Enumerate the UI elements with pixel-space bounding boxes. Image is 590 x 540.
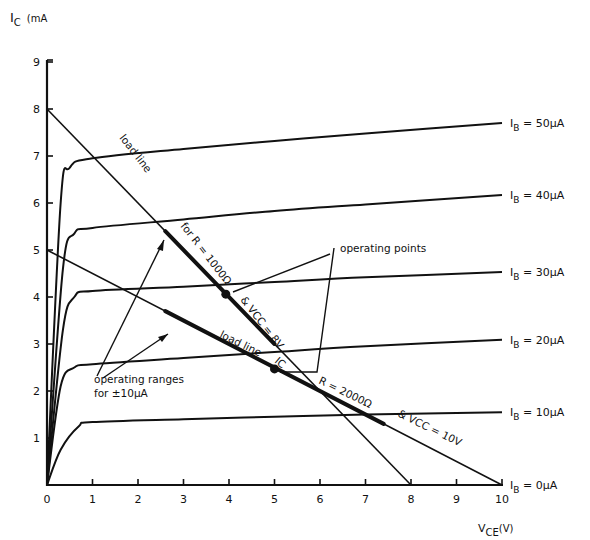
arrow-head-icon — [158, 334, 168, 342]
y-tick-label: 2 — [33, 385, 40, 398]
x-tick-label: 9 — [453, 493, 460, 506]
x-tick-label: 6 — [317, 493, 324, 506]
transistor-output-characteristics-chart: 012345678910 123456789 IC(mA VCE(V) IB =… — [0, 0, 590, 540]
x-tick-label: 3 — [180, 493, 187, 506]
y-axis-label: IC(mA — [10, 10, 47, 28]
x-tick-label: 10 — [495, 493, 509, 506]
ib-curve-label: IB = 50µA — [510, 117, 565, 133]
x-tick-label: 0 — [44, 493, 51, 506]
ib-curve-label: IB = 40µA — [510, 189, 565, 205]
ib-curve-label: IB = 0µA — [510, 479, 558, 495]
ib-curve-label: IB = 30µA — [510, 266, 565, 282]
ib-curve-label: IB = 20µA — [510, 334, 565, 350]
y-tick-label: 7 — [33, 150, 40, 163]
x-tick-label: 2 — [135, 493, 142, 506]
y-tick-label: 6 — [33, 197, 40, 210]
load-line-1-label: load line — [117, 132, 154, 175]
operating-points-pointer-2 — [280, 248, 334, 372]
x-ticks: 012345678910 — [44, 479, 510, 506]
operating-range-arrow-1 — [97, 240, 164, 376]
operating-points-label: operating points — [340, 242, 426, 254]
x-tick-label: 4 — [226, 493, 233, 506]
y-tick-label: 3 — [33, 338, 40, 351]
operating-range-arrow-2 — [103, 334, 168, 378]
ib-curve-labels: IB = 50µAIB = 40µAIB = 30µAIB = 20µAIB =… — [510, 117, 565, 495]
y-tick-label: 5 — [33, 244, 40, 257]
x-axis-label: VCE(V) — [478, 522, 514, 538]
operating-points-pointer-1 — [233, 254, 330, 292]
y-tick-label: 9 — [33, 56, 40, 69]
y-ticks: 123456789 — [33, 56, 53, 445]
x-tick-label: 5 — [271, 493, 278, 506]
ib-curve-label: IB = 10µA — [510, 406, 565, 422]
x-tick-label: 8 — [408, 493, 415, 506]
y-tick-label: 4 — [33, 291, 40, 304]
y-tick-label: 8 — [33, 103, 40, 116]
operating-ranges-label-2: for ±10µA — [94, 387, 149, 399]
operating-ranges-label-1: operating ranges — [94, 373, 184, 385]
y-tick-label: 1 — [33, 432, 40, 445]
arrow-head-icon — [157, 240, 164, 251]
operating-point-1 — [221, 290, 230, 299]
x-tick-label: 1 — [89, 493, 96, 506]
x-tick-label: 7 — [362, 493, 369, 506]
